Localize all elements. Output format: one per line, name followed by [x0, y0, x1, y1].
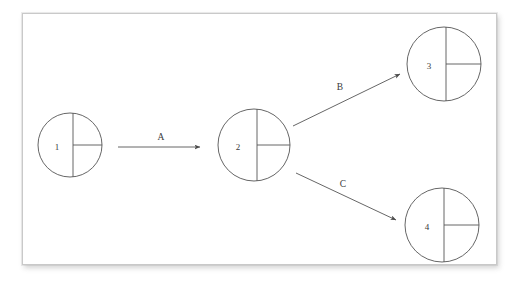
node-label: 4: [425, 223, 430, 232]
node-label: 1: [55, 143, 60, 152]
node-label: 2: [236, 143, 241, 152]
transition-label: C: [340, 180, 346, 190]
figure-root: 1234ABC: [0, 0, 517, 284]
transition-label: B: [337, 83, 343, 93]
node-label: 3: [427, 62, 432, 71]
transition-label: A: [158, 133, 165, 143]
